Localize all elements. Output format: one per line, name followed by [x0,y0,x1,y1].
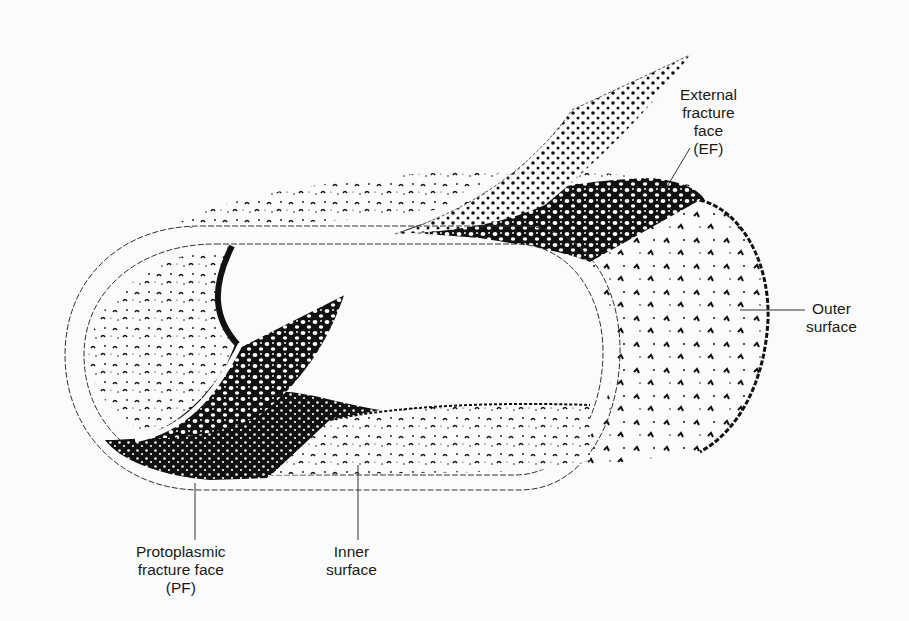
label-protoplasmic-fracture-face: Protoplasmic fracture face (PF) [136,543,226,597]
freeze-fracture-diagram: External fracture face (EF) Outer surfac… [0,0,909,621]
membrane-illustration [0,0,909,621]
label-external-fracture-face: External fracture face (EF) [680,86,737,158]
label-inner-surface: Inner surface [326,543,377,579]
label-outer-surface: Outer surface [806,300,857,336]
